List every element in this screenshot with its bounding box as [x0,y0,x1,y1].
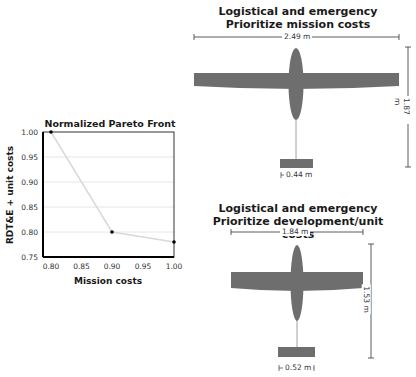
wingspan-label-2: 1.84 m [280,227,310,236]
tail [280,159,313,168]
length-label-2: 1.53 m [362,284,371,314]
tail-span-label-1: 0.44 m [284,170,314,179]
length-label-1: 1.87 m [393,96,411,124]
fuselage [291,245,304,321]
wingspan-label-1: 2.49 m [282,32,312,41]
fuselage [289,48,304,120]
aircraft-1-drawing [0,0,416,190]
tail-span-label-2: 0.52 m [283,363,313,372]
aircraft-2-drawing [0,190,416,377]
tail [278,347,315,357]
